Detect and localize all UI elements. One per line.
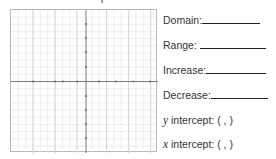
grid-svg	[11, 10, 158, 153]
domain-label: Domain:	[163, 14, 202, 26]
x-intercept-label: intercept: ( , )	[168, 138, 233, 150]
increase-blank[interactable]	[206, 72, 266, 74]
range-blank[interactable]	[200, 47, 266, 49]
coordinate-grid[interactable]	[10, 9, 157, 152]
domain-field[interactable]: Domain:	[163, 14, 260, 26]
answer-fields: Domain: Range: Increase: Decrease: y int…	[163, 0, 276, 159]
y-intercept-label: intercept: ( , )	[168, 114, 233, 126]
title-fragment: T	[99, 0, 105, 5]
decrease-blank[interactable]	[211, 97, 268, 99]
increase-label: Increase:	[163, 64, 206, 76]
y-intercept-field[interactable]: y intercept: ( , )	[163, 114, 233, 126]
range-label: Range:	[163, 39, 197, 51]
decrease-field[interactable]: Decrease:	[163, 89, 268, 101]
decrease-label: Decrease:	[163, 89, 211, 101]
domain-blank[interactable]	[202, 22, 260, 24]
range-field[interactable]: Range:	[163, 39, 266, 51]
x-intercept-field[interactable]: x intercept: ( , )	[163, 138, 233, 150]
increase-field[interactable]: Increase:	[163, 64, 266, 76]
